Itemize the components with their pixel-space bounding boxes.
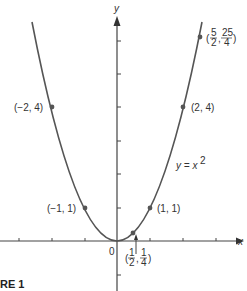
y-axis-label: y [113, 3, 120, 14]
svg-text:): ) [233, 33, 236, 44]
label-1-1: (1, 1) [157, 203, 180, 214]
svg-text:2: 2 [129, 257, 135, 268]
label-half-quarter: ( 1 2 , 1 4 ) [125, 247, 151, 268]
figure-caption: RE 1 [0, 278, 24, 290]
svg-text:,: , [136, 253, 139, 264]
label-5half-25quarter: ( 5 2 , 25 4 ) [206, 27, 236, 48]
label-neg1-1: (−1, 1) [47, 203, 76, 214]
curve-equation-label: y = x 2 [175, 155, 206, 171]
svg-text:,: , [218, 33, 221, 44]
x-axis-label: x [237, 236, 244, 247]
svg-text:(: ( [206, 33, 210, 44]
svg-text:y = x: y = x [175, 160, 198, 171]
label-2-4: (2, 4) [191, 102, 214, 113]
svg-text:4: 4 [141, 257, 147, 268]
svg-text:): ) [148, 253, 151, 264]
label-neg2-4: (−2, 4) [14, 102, 43, 113]
svg-text:4: 4 [224, 37, 230, 48]
point-neg2-4 [50, 105, 55, 110]
point-2-4 [181, 105, 186, 110]
svg-text:2: 2 [200, 155, 206, 166]
point-1-1 [148, 206, 153, 211]
origin-label: 0 [109, 246, 115, 257]
point-half-quarter [131, 231, 136, 236]
svg-text:2: 2 [211, 37, 217, 48]
annotation-arrowhead-icon [134, 234, 138, 240]
point-5half-25quarter [198, 35, 203, 40]
y-axis-arrow-icon [114, 16, 121, 26]
parabola-chart: y x 0 (−2, 4) (−1, 1) (1, 1) (2, 4) y = … [0, 0, 247, 291]
point-neg1-1 [83, 206, 88, 211]
